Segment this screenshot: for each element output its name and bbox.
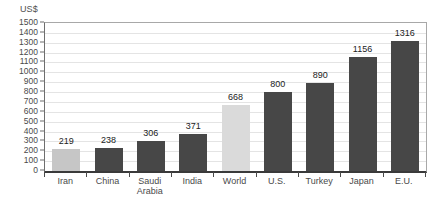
bar-chart: US$ 21923830637166880089011561316 010020… (0, 0, 432, 208)
y-axis-tick-mark (40, 22, 44, 23)
y-axis-tick-mark (40, 110, 44, 111)
bar-value-label: 306 (143, 128, 158, 138)
plot-area: 21923830637166880089011561316 (44, 22, 427, 173)
y-axis-tick-label: 400 (0, 126, 38, 136)
x-axis-category-label: Japan (338, 176, 384, 186)
x-axis-category-label: India (169, 176, 215, 186)
x-axis-category-label: Saudi Arabia (127, 176, 173, 197)
y-axis-tick-mark (40, 91, 44, 92)
x-axis-category-label: World (211, 176, 257, 186)
y-axis-tick-label: 900 (0, 76, 38, 86)
y-axis-tick-mark (40, 71, 44, 72)
x-axis-category-label: E.U. (381, 176, 427, 186)
bar-india (179, 134, 207, 171)
bar-value-label: 1156 (353, 44, 372, 54)
y-axis-tick-label: 200 (0, 145, 38, 155)
y-axis-tick-label: 800 (0, 86, 38, 96)
y-axis-tick-label: 0 (0, 165, 38, 175)
y-axis-tick-mark (40, 81, 44, 82)
y-axis-tick-label: 500 (0, 116, 38, 126)
bar-u-s (264, 92, 292, 171)
y-axis-tick-mark (40, 170, 44, 171)
y-axis-tick-label: 600 (0, 106, 38, 116)
x-axis-category-label: U.S. (254, 176, 300, 186)
bar-iran (52, 149, 80, 171)
y-axis-tick-label: 1100 (0, 56, 38, 66)
y-axis-tick-mark (40, 41, 44, 42)
bar-world (222, 105, 250, 171)
y-axis-tick-mark (40, 31, 44, 32)
y-axis-tick-label: 1200 (0, 47, 38, 57)
y-axis-tick-label: 1400 (0, 27, 38, 37)
y-axis-tick-mark (40, 150, 44, 151)
x-axis-category-label: China (84, 176, 130, 186)
y-axis-tick-mark (40, 100, 44, 101)
bar-value-label: 800 (270, 79, 285, 89)
bar-china (95, 148, 123, 171)
gridline (45, 33, 426, 34)
y-axis-tick-label: 300 (0, 135, 38, 145)
y-axis-tick-label: 700 (0, 96, 38, 106)
bar-value-label: 668 (228, 92, 243, 102)
y-axis-tick-label: 1000 (0, 66, 38, 76)
y-axis-tick-label: 1500 (0, 17, 38, 27)
bar-value-label: 238 (101, 135, 116, 145)
x-axis-category-label: Turkey (296, 176, 342, 186)
y-axis-tick-mark (40, 160, 44, 161)
y-axis-tick-mark (40, 51, 44, 52)
y-axis-tick-label: 1300 (0, 37, 38, 47)
bar-value-label: 371 (186, 121, 201, 131)
bar-value-label: 219 (59, 136, 74, 146)
bar-turkey (306, 83, 334, 171)
bar-value-label: 890 (313, 70, 328, 80)
bar-japan (349, 57, 377, 171)
bar-value-label: 1316 (395, 28, 415, 38)
y-axis-tick-mark (40, 61, 44, 62)
bar-e-u (391, 41, 419, 171)
x-axis-category-label: Iran (42, 176, 88, 186)
y-axis-unit-label: US$ (0, 4, 38, 14)
y-axis-tick-mark (40, 120, 44, 121)
y-axis-tick-label: 100 (0, 155, 38, 165)
y-axis-tick-mark (40, 130, 44, 131)
bar-saudi-arabia (137, 141, 165, 171)
y-axis-tick-mark (40, 140, 44, 141)
